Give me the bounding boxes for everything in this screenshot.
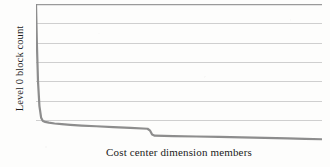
x-axis-label: Cost center dimension members [36,146,322,158]
chart-figure: Level 0 block count Cost center dimensio… [0,0,330,167]
y-axis-label: Level 0 block count [14,4,25,134]
plot-area [36,4,322,142]
chart-canvas [36,4,322,142]
data-series-line [36,4,322,139]
gridlines-group [36,5,322,121]
